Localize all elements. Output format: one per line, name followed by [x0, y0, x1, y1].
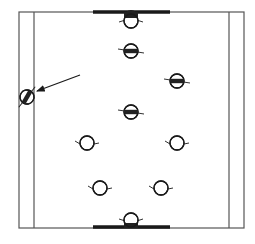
right-arm-icon	[107, 188, 112, 189]
figure-row6-right	[149, 181, 173, 195]
left-arm-icon	[88, 186, 93, 189]
figure-row4-center	[118, 105, 144, 119]
figures-layer	[14, 10, 190, 228]
left-arm-icon	[165, 141, 170, 144]
side-figure-tilted	[14, 82, 39, 112]
pointer-arrow-icon	[37, 75, 80, 91]
right-arm-icon	[94, 143, 99, 144]
right-arm-icon	[168, 188, 173, 189]
figure-row3-right	[164, 74, 190, 88]
figure-row6-left	[88, 181, 112, 195]
left-arm-icon	[75, 141, 80, 144]
figure-row5-right	[165, 136, 189, 150]
band-fill	[125, 49, 138, 53]
band-fill	[171, 79, 184, 83]
left-arm-icon	[149, 186, 154, 189]
court-diagram	[0, 0, 255, 244]
diagram-canvas	[0, 0, 255, 244]
figure-row5-left	[75, 136, 99, 150]
half-fill-top	[124, 12, 138, 18]
band-fill	[125, 110, 138, 114]
right-arm-icon	[184, 143, 189, 144]
arrow-layer	[37, 75, 80, 91]
figure-row2-center	[118, 44, 144, 58]
